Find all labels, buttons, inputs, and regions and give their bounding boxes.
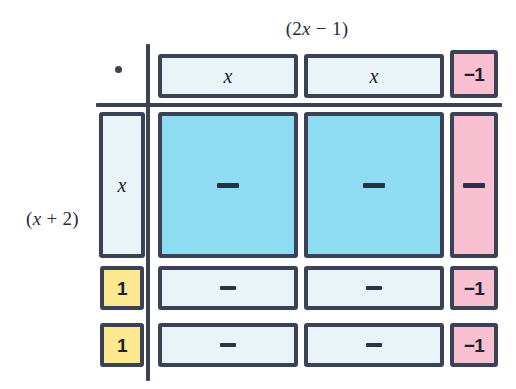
algebra-tile-diagram: (2x − 1) (x + 2) x x −1 x 1 1 −1: [0, 0, 516, 389]
column-header-tile-3[interactable]: −1: [450, 50, 498, 98]
product-tile-r2c3[interactable]: −1: [450, 266, 498, 310]
row-header-tile-1[interactable]: x: [99, 112, 145, 258]
minus-dash-icon: [366, 286, 382, 290]
product-tile-r2c1[interactable]: [158, 266, 298, 310]
horizontal-axis-rule: [96, 103, 502, 107]
top-factor-text: (2x − 1): [286, 18, 349, 39]
minus-dash-icon: [366, 343, 382, 347]
column-header-tile-1[interactable]: x: [158, 54, 298, 98]
tile-label: −1: [464, 279, 485, 298]
row-header-tile-2[interactable]: 1: [100, 266, 144, 310]
tile-label: x: [370, 66, 379, 86]
row-header-tile-3[interactable]: 1: [100, 323, 144, 367]
top-factor-label: (2x − 1): [252, 18, 382, 40]
minus-dash-icon: [463, 183, 485, 188]
product-tile-r1c3[interactable]: [450, 112, 498, 258]
column-header-tile-2[interactable]: x: [304, 54, 444, 98]
product-tile-r3c2[interactable]: [304, 323, 444, 367]
product-tile-r3c1[interactable]: [158, 323, 298, 367]
tile-label: 1: [117, 336, 127, 355]
vertical-axis-rule: [146, 44, 150, 381]
tile-label: x: [118, 175, 127, 195]
product-tile-r1c2[interactable]: [304, 112, 444, 258]
minus-dash-icon: [220, 343, 236, 347]
corner-dot-marker: [115, 66, 122, 73]
minus-dash-icon: [220, 286, 236, 290]
product-tile-r2c2[interactable]: [304, 266, 444, 310]
tile-label: 1: [117, 279, 127, 298]
tile-label: x: [224, 66, 233, 86]
left-factor-text: (x + 2): [26, 208, 79, 229]
tile-label: −1: [464, 336, 485, 355]
product-tile-r1c1[interactable]: [158, 112, 298, 258]
tile-label: −1: [464, 65, 485, 84]
product-tile-r3c3[interactable]: −1: [450, 323, 498, 367]
minus-dash-icon: [217, 183, 239, 188]
minus-dash-icon: [363, 183, 385, 188]
